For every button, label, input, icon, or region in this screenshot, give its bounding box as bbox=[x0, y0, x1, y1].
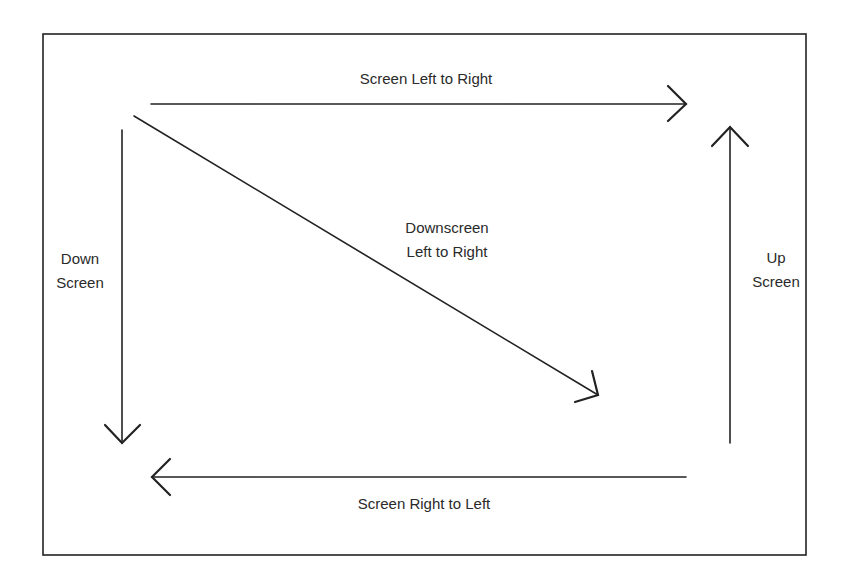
label-screen-left-to-right: Screen Left to Right bbox=[326, 67, 526, 91]
arrow-downscreen-left-to-right bbox=[134, 116, 598, 402]
label-up-screen: Screen bbox=[741, 270, 811, 294]
label-screen-right-to-left: Screen Right to Left bbox=[324, 492, 524, 516]
label-down: Down bbox=[45, 247, 115, 271]
label-downscreen: Downscreen bbox=[377, 216, 517, 240]
arrow-screen-right-to-left bbox=[152, 459, 686, 495]
label-downscreen-left-to-right: Left to Right bbox=[377, 240, 517, 264]
label-up: Up bbox=[741, 246, 811, 270]
label-down-screen: Screen bbox=[45, 271, 115, 295]
arrow-screen-left-to-right bbox=[151, 86, 686, 121]
